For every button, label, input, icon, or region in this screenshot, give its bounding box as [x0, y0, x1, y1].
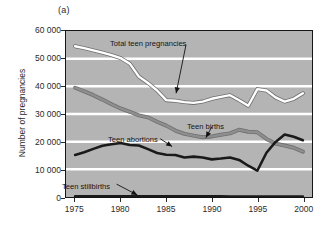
x-tick-label: 1995 — [248, 204, 267, 214]
x-tick-label: 1990 — [202, 204, 221, 214]
figure-panel-a: (a) Number of pregnancies 010 00020 0003… — [0, 0, 328, 241]
chart-svg — [66, 31, 312, 197]
plot-area — [65, 30, 313, 198]
x-tick-label: 1975 — [65, 204, 84, 214]
x-tick-label: 2000 — [294, 204, 313, 214]
series-line-total-teen-pregnancies — [75, 46, 303, 105]
x-tick-label: 1980 — [111, 204, 130, 214]
panel-label: (a) — [58, 5, 70, 15]
y-axis-tick-marks — [0, 30, 65, 198]
annotation-label: Total teen pregnancies — [110, 39, 186, 48]
annotation-arrow-head — [175, 87, 180, 93]
x-axis-tick-labels: 197519801985199019952000 — [65, 202, 313, 220]
annotation-label: Teen births — [187, 122, 224, 131]
annotation-label: Teen stillbirths — [62, 182, 110, 191]
annotation-label: Teen abortions — [108, 135, 158, 144]
x-tick-label: 1985 — [157, 204, 176, 214]
